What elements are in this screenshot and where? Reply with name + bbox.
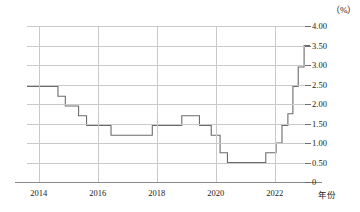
y-axis-tick-mark — [305, 85, 311, 86]
x-axis-tick-label: 2016 — [89, 188, 106, 198]
x-axis-tick-label: 2022 — [266, 188, 283, 198]
y-axis-tick-label: 3.00 — [312, 60, 327, 70]
y-axis-tick-label: 3.50 — [312, 41, 327, 51]
gridline-horizontal — [27, 26, 310, 27]
chart-container: （%） 00.501.001.502.002.503.003.504.00201… — [0, 0, 360, 212]
x-axis-tick-label: 2018 — [148, 188, 165, 198]
y-axis-tick-label: 2.50 — [312, 80, 327, 90]
gridline-vertical — [157, 26, 158, 182]
plot-area — [27, 26, 310, 182]
y-axis-tick-label: 4.00 — [312, 21, 327, 31]
y-axis-tick-label: 1.00 — [312, 138, 327, 148]
y-axis-unit-label: （%） — [331, 3, 356, 16]
y-axis-tick-mark — [305, 26, 311, 27]
gridline-vertical — [98, 26, 99, 182]
gridline-horizontal — [27, 163, 310, 164]
x-axis-tick-label: 2014 — [30, 188, 47, 198]
y-axis-tick-label: 0 — [312, 177, 316, 187]
gridline-vertical — [275, 26, 276, 182]
y-axis-tick-mark — [305, 124, 311, 125]
x-axis-line — [15, 182, 322, 183]
y-axis-tick-mark — [305, 104, 311, 105]
y-axis-tick-mark — [305, 163, 311, 164]
gridline-horizontal — [27, 104, 310, 105]
gridline-vertical — [216, 26, 217, 182]
y-axis-tick-mark — [305, 182, 311, 183]
x-axis-tick-label: 2020 — [207, 188, 224, 198]
y-axis-tick-mark — [305, 65, 311, 66]
x-axis-title: 年份 — [318, 188, 336, 200]
y-axis-tick-label: 1.50 — [312, 119, 327, 129]
y-axis-tick-mark — [305, 46, 311, 47]
gridline-horizontal — [27, 124, 310, 125]
y-axis-tick-label: 0.50 — [312, 158, 327, 168]
y-axis-tick-mark — [305, 143, 311, 144]
gridline-horizontal — [27, 46, 310, 47]
y-axis-tick-label: 2.00 — [312, 99, 327, 109]
gridline-vertical — [39, 26, 40, 182]
gridline-horizontal — [27, 65, 310, 66]
gridline-horizontal — [27, 143, 310, 144]
gridline-horizontal — [27, 85, 310, 86]
